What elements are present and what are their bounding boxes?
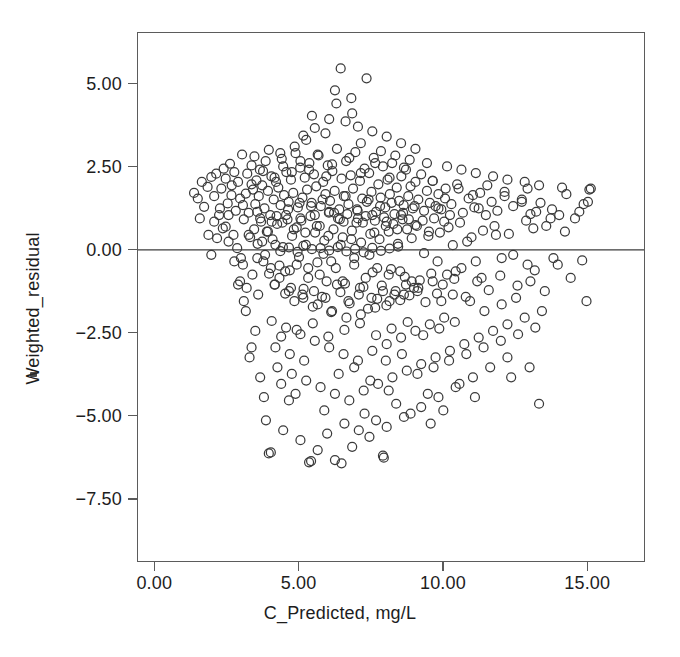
data-point bbox=[354, 426, 363, 435]
data-point bbox=[325, 115, 334, 124]
data-point bbox=[197, 177, 206, 186]
data-point bbox=[376, 246, 385, 255]
data-point bbox=[263, 186, 272, 195]
data-point bbox=[430, 214, 439, 223]
data-point bbox=[364, 195, 373, 204]
data-point bbox=[325, 343, 334, 352]
data-point bbox=[462, 350, 471, 359]
data-point bbox=[282, 323, 291, 332]
data-point bbox=[316, 383, 325, 392]
data-point bbox=[456, 218, 465, 227]
data-point bbox=[523, 260, 532, 269]
data-point bbox=[365, 432, 374, 441]
data-point bbox=[404, 192, 413, 201]
data-point bbox=[322, 277, 331, 286]
y-tick-mark bbox=[128, 83, 137, 84]
data-point bbox=[560, 227, 569, 236]
data-point bbox=[210, 192, 219, 201]
data-point bbox=[290, 297, 299, 306]
data-point bbox=[382, 132, 391, 141]
y-tick-mark bbox=[128, 166, 137, 167]
data-point bbox=[414, 195, 423, 204]
data-point bbox=[417, 403, 426, 412]
data-point bbox=[366, 376, 375, 385]
y-axis-label: Weighted_residual bbox=[23, 232, 44, 384]
data-point bbox=[503, 353, 512, 362]
data-point bbox=[525, 363, 534, 372]
data-point bbox=[536, 198, 545, 207]
data-point bbox=[420, 206, 429, 215]
x-tick-mark bbox=[442, 562, 443, 571]
data-point bbox=[526, 277, 535, 286]
data-point bbox=[529, 224, 538, 233]
data-point bbox=[471, 169, 480, 178]
data-point bbox=[356, 139, 365, 148]
data-point bbox=[431, 353, 440, 362]
data-point bbox=[497, 300, 506, 309]
data-point bbox=[422, 186, 431, 195]
y-tick-mark bbox=[128, 415, 137, 416]
data-point bbox=[435, 324, 444, 333]
y-tick-label: 2.50 bbox=[86, 156, 122, 177]
data-point bbox=[238, 150, 247, 159]
data-point bbox=[248, 270, 257, 279]
data-point bbox=[261, 416, 270, 425]
data-point bbox=[439, 406, 448, 415]
data-point bbox=[384, 270, 393, 279]
data-point bbox=[362, 74, 371, 83]
y-tick-label: −7.50 bbox=[75, 488, 122, 509]
data-point bbox=[419, 331, 428, 340]
data-point bbox=[392, 183, 401, 192]
data-point bbox=[526, 210, 535, 219]
data-point bbox=[290, 142, 299, 151]
data-point bbox=[440, 313, 449, 322]
data-point bbox=[396, 267, 405, 276]
y-tick-mark bbox=[128, 498, 137, 499]
data-point bbox=[371, 159, 380, 168]
data-point bbox=[355, 319, 364, 328]
data-point bbox=[347, 94, 356, 103]
data-point bbox=[411, 144, 420, 153]
data-point bbox=[210, 217, 219, 226]
data-point bbox=[558, 183, 567, 192]
data-point bbox=[302, 376, 311, 385]
data-point bbox=[349, 184, 358, 193]
data-point bbox=[332, 99, 341, 108]
data-point bbox=[497, 254, 506, 263]
data-point bbox=[356, 310, 365, 319]
data-point bbox=[535, 181, 544, 190]
data-point bbox=[382, 340, 391, 349]
data-point bbox=[285, 350, 294, 359]
data-point bbox=[360, 409, 369, 418]
data-point bbox=[307, 111, 316, 120]
data-point bbox=[277, 379, 286, 388]
data-point bbox=[532, 207, 541, 216]
data-point bbox=[323, 429, 332, 438]
data-point bbox=[484, 286, 493, 295]
data-point bbox=[578, 256, 587, 265]
data-point bbox=[350, 254, 359, 263]
data-point bbox=[368, 346, 377, 355]
data-point bbox=[480, 307, 489, 316]
data-point bbox=[368, 127, 377, 136]
data-point bbox=[372, 416, 381, 425]
data-point bbox=[546, 214, 555, 223]
data-point bbox=[428, 176, 437, 185]
data-point bbox=[296, 157, 305, 166]
data-point bbox=[340, 325, 349, 334]
data-point bbox=[441, 184, 450, 193]
data-point bbox=[307, 245, 316, 254]
data-point bbox=[392, 399, 401, 408]
data-point bbox=[219, 164, 228, 173]
data-point bbox=[417, 170, 426, 179]
data-point bbox=[324, 332, 333, 341]
data-point bbox=[397, 350, 406, 359]
data-point bbox=[490, 222, 499, 231]
x-tick-mark bbox=[587, 562, 588, 571]
data-point bbox=[481, 211, 490, 220]
data-point bbox=[471, 257, 480, 266]
data-point bbox=[457, 165, 466, 174]
data-point bbox=[434, 393, 443, 402]
data-point bbox=[491, 230, 500, 239]
data-point bbox=[504, 229, 513, 238]
